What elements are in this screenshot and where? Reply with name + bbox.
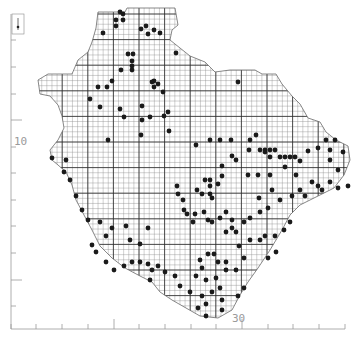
record-dot: [266, 206, 271, 211]
record-dot: [121, 18, 126, 23]
record-dot: [118, 107, 123, 112]
record-dot: [220, 164, 225, 169]
record-dot: [254, 133, 259, 138]
record-dot: [242, 286, 247, 291]
major-grid: [0, 0, 359, 340]
record-dot: [278, 155, 283, 160]
record-dot: [214, 276, 219, 281]
record-dot: [229, 138, 234, 143]
record-dot: [158, 31, 163, 36]
record-dot: [257, 196, 262, 201]
record-dot: [288, 155, 293, 160]
record-dot: [139, 133, 144, 138]
map-canvas: 10 30: [0, 0, 359, 340]
record-dot: [173, 274, 178, 279]
record-dot: [278, 198, 283, 203]
record-dot: [303, 194, 308, 199]
record-dot: [320, 188, 325, 193]
record-dot: [204, 314, 209, 319]
record-dot: [64, 158, 69, 163]
record-dot: [242, 256, 247, 261]
record-dot: [288, 220, 293, 225]
record-dot: [121, 12, 126, 17]
record-dot: [86, 218, 91, 223]
record-dot: [274, 250, 279, 255]
record-dot: [328, 158, 333, 163]
record-dot: [195, 188, 200, 193]
record-dot: [130, 260, 135, 265]
record-dot: [185, 212, 190, 217]
record-dot: [191, 220, 196, 225]
record-dot: [119, 68, 124, 73]
record-dot: [212, 252, 217, 257]
record-dot: [216, 182, 221, 187]
record-dot: [242, 220, 247, 225]
record-dot: [140, 118, 145, 123]
record-dot: [188, 290, 193, 295]
record-dot: [178, 284, 183, 289]
record-dot: [298, 188, 303, 193]
record-dot: [194, 143, 199, 148]
record-dot: [208, 184, 213, 189]
record-dot: [324, 138, 329, 143]
record-dot: [181, 198, 186, 203]
record-dot: [167, 129, 172, 134]
record-dot: [146, 262, 151, 267]
record-dot: [110, 226, 115, 231]
record-dot: [210, 290, 215, 295]
record-dot: [247, 148, 252, 153]
record-dot: [208, 138, 213, 143]
record-dot: [210, 220, 215, 225]
record-dot: [256, 173, 261, 178]
record-dot: [263, 150, 268, 155]
record-dot: [110, 79, 115, 84]
record-dot: [138, 242, 143, 247]
record-dot: [124, 224, 129, 229]
record-dot: [152, 85, 157, 90]
record-dot: [98, 220, 103, 225]
record-dot: [146, 226, 151, 231]
record-dot: [114, 18, 119, 23]
record-dot: [101, 31, 106, 36]
record-dot: [258, 210, 263, 215]
record-dot: [224, 268, 229, 273]
record-dot: [104, 234, 109, 239]
record-dot: [282, 228, 287, 233]
bottom-axis-label: 30: [232, 312, 245, 325]
record-dot: [316, 146, 321, 151]
record-dot: [138, 260, 143, 265]
record-dot: [268, 155, 273, 160]
record-dot: [248, 238, 253, 243]
record-dot: [248, 138, 253, 143]
record-dot: [210, 196, 215, 201]
axes: 10 30: [11, 14, 345, 329]
record-dot: [204, 278, 209, 283]
record-dot: [230, 218, 235, 223]
record-dot: [68, 178, 73, 183]
record-dot: [88, 97, 93, 102]
record-dot: [298, 159, 303, 164]
record-dot: [234, 268, 239, 273]
record-dot: [202, 210, 207, 215]
record-dot: [290, 194, 295, 199]
record-dot: [306, 149, 311, 154]
record-dot: [112, 268, 117, 273]
record-dot: [237, 244, 242, 249]
record-dot: [310, 180, 315, 185]
record-dot: [175, 184, 180, 189]
record-dot: [258, 238, 263, 243]
record-dot: [74, 194, 79, 199]
record-dot: [234, 230, 239, 235]
record-dots: [50, 10, 351, 319]
record-dot: [166, 110, 171, 115]
record-dot: [62, 170, 67, 175]
record-dot: [220, 308, 225, 313]
record-dot: [114, 24, 119, 29]
record-dot: [198, 258, 203, 263]
record-dot: [234, 158, 239, 163]
record-dot: [163, 270, 168, 275]
fine-grid: [0, 0, 359, 340]
record-dot: [273, 148, 278, 153]
record-dot: [130, 68, 135, 73]
record-dot: [206, 252, 211, 257]
